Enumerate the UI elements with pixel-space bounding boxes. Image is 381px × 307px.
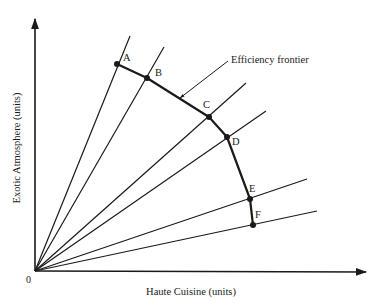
point-a bbox=[114, 61, 120, 67]
ray-lines bbox=[35, 36, 317, 271]
point-label-b: B bbox=[155, 67, 162, 78]
frontier-pointer-arrow bbox=[180, 61, 228, 98]
ray-a bbox=[35, 36, 130, 271]
point-label-c: C bbox=[203, 99, 210, 110]
x-axis-label: Haute Cuisine (units) bbox=[146, 286, 236, 298]
point-d bbox=[224, 134, 230, 140]
point-label-e: E bbox=[249, 183, 255, 194]
ray-e bbox=[35, 179, 307, 271]
point-e bbox=[247, 196, 253, 202]
point-f bbox=[250, 222, 256, 228]
frontier-label: Efficiency frontier bbox=[231, 54, 309, 65]
ray-b bbox=[35, 47, 164, 271]
ray-c bbox=[35, 83, 246, 271]
x-axis bbox=[35, 271, 366, 272]
efficiency-frontier-diagram: ABCDEF Efficiency frontier 0 Haute Cuisi… bbox=[0, 0, 381, 307]
point-label-f: F bbox=[255, 209, 261, 220]
point-c bbox=[206, 114, 212, 120]
point-b bbox=[144, 75, 150, 81]
point-label-d: D bbox=[232, 136, 240, 147]
point-label-a: A bbox=[123, 52, 131, 63]
origin-label: 0 bbox=[26, 274, 31, 285]
y-axis-label: Exotic Atmosphere (units) bbox=[11, 92, 23, 203]
